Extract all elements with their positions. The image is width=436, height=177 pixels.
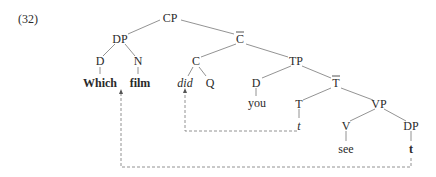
syntax-tree: (32) CP DP D N Which film C C did Q TP D…: [0, 0, 436, 177]
node-n-film: N: [134, 54, 143, 68]
word-which: Which: [83, 76, 117, 90]
node-cbar: C: [236, 32, 244, 46]
node-d-you: D: [252, 76, 261, 90]
node-tbar: T: [332, 76, 340, 90]
example-number: (32): [18, 12, 38, 26]
node-t-head: T: [295, 97, 303, 111]
node-tp: TP: [289, 54, 303, 68]
word-film: film: [130, 76, 151, 90]
node-cp: CP: [163, 11, 178, 25]
trace-t-head: t: [297, 119, 301, 133]
node-d-which: D: [96, 54, 105, 68]
head-movement-arrow: [185, 92, 297, 131]
word-you: you: [248, 96, 266, 110]
node-q: Q: [206, 76, 215, 90]
trace-dp-obj: t: [409, 142, 413, 156]
node-c: C: [192, 54, 200, 68]
node-dp: DP: [112, 32, 128, 46]
node-dp-obj: DP: [403, 119, 419, 133]
wh-movement-arrow: [121, 93, 411, 167]
node-v: V: [342, 119, 351, 133]
word-did: did: [177, 76, 193, 90]
node-vp: VP: [371, 97, 387, 111]
word-see: see: [338, 142, 353, 156]
arrowhead-icon: [119, 89, 123, 94]
